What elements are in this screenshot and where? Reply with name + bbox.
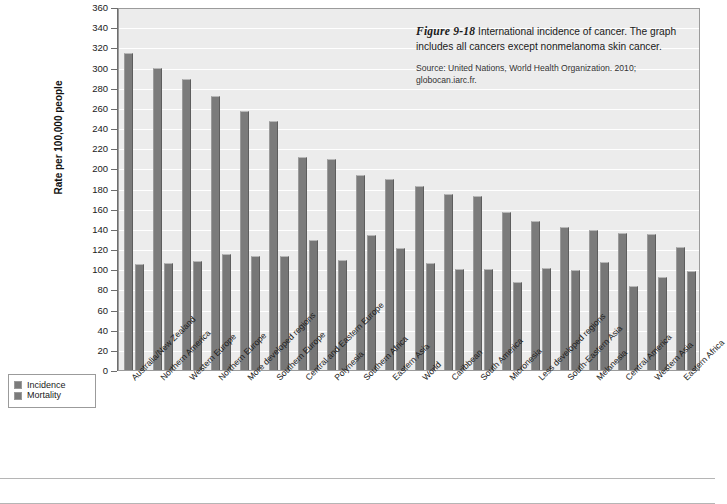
bar-mortality-19 <box>687 271 696 370</box>
gridline <box>119 169 699 170</box>
bar-incidence-10 <box>415 186 424 370</box>
y-axis-tick <box>111 331 117 332</box>
bar-mortality-8 <box>367 235 376 370</box>
y-axis-tick <box>111 230 117 231</box>
gridline <box>119 230 699 231</box>
legend-swatch-mortality <box>14 392 22 400</box>
legend-label-incidence: Incidence <box>27 381 66 390</box>
bar-mortality-1 <box>164 263 173 370</box>
bar-mortality-4 <box>251 256 260 370</box>
gridline <box>119 109 699 110</box>
legend-item-mortality: Mortality <box>14 391 90 400</box>
gridline <box>119 290 699 291</box>
bar-mortality-3 <box>222 254 231 370</box>
y-axis-tick <box>111 69 117 70</box>
y-axis-tick <box>111 28 117 29</box>
gridline <box>119 331 699 332</box>
bar-incidence-16 <box>589 230 598 370</box>
bar-mortality-2 <box>193 261 202 370</box>
bar-mortality-9 <box>396 248 405 370</box>
bar-incidence-17 <box>618 233 627 370</box>
bar-incidence-19 <box>676 247 685 370</box>
y-axis-tick <box>111 270 117 271</box>
y-axis-tick-label: 60 <box>86 306 108 316</box>
bar-incidence-11 <box>444 194 453 370</box>
y-axis-tick <box>111 129 117 130</box>
y-axis-tick-label: 140 <box>86 225 108 235</box>
bar-incidence-15 <box>560 227 569 370</box>
gridline <box>119 210 699 211</box>
gridline <box>119 190 699 191</box>
bar-incidence-3 <box>211 96 220 370</box>
bar-incidence-1 <box>153 68 162 371</box>
bar-mortality-6 <box>309 240 318 370</box>
bar-incidence-5 <box>269 121 278 370</box>
y-axis-line <box>117 8 118 371</box>
bar-mortality-12 <box>484 269 493 370</box>
y-axis-tick-label: 20 <box>86 346 108 356</box>
bar-mortality-7 <box>338 260 347 370</box>
figure-caption: Figure 9-18 International incidence of c… <box>416 24 684 87</box>
bar-incidence-7 <box>327 159 336 370</box>
bar-mortality-11 <box>455 269 464 370</box>
caption-body: Figure 9-18 International incidence of c… <box>416 24 684 54</box>
y-axis-tick-label: 360 <box>86 3 108 13</box>
y-axis-tick-label: 40 <box>86 326 108 336</box>
legend-label-mortality: Mortality <box>27 391 61 400</box>
bar-incidence-14 <box>531 221 540 370</box>
y-axis-tick-label: 220 <box>86 144 108 154</box>
y-axis-tick <box>111 8 117 9</box>
gridline <box>119 270 699 271</box>
bar-mortality-0 <box>135 264 144 370</box>
y-axis-title: Rate per 100,000 people <box>53 58 64 218</box>
y-axis-tick <box>111 371 117 372</box>
y-axis-tick <box>111 311 117 312</box>
y-axis-tick <box>111 149 117 150</box>
bar-incidence-8 <box>356 175 365 370</box>
bar-mortality-18 <box>658 277 667 370</box>
y-axis-tick-label: 240 <box>86 124 108 134</box>
y-axis-tick-label: 280 <box>86 84 108 94</box>
legend-swatch-incidence <box>14 381 22 389</box>
gridline <box>119 351 699 352</box>
caption-source: Source: United Nations, World Health Org… <box>416 63 684 87</box>
figure-number: Figure 9-18 <box>416 25 475 38</box>
bar-mortality-10 <box>426 263 435 370</box>
y-axis-tick-label: 260 <box>86 104 108 114</box>
bar-incidence-9 <box>385 179 394 370</box>
chart-legend: Incidence Mortality <box>8 374 96 408</box>
gridline <box>119 129 699 130</box>
gridline <box>119 149 699 150</box>
y-axis-tick <box>111 89 117 90</box>
gridline <box>119 250 699 251</box>
y-axis-tick-label: 200 <box>86 164 108 174</box>
y-axis-tick <box>111 169 117 170</box>
y-axis-tick-label: 80 <box>86 285 108 295</box>
page-rule-top <box>0 478 715 479</box>
bar-incidence-6 <box>298 157 307 370</box>
gridline <box>119 311 699 312</box>
bar-incidence-2 <box>182 79 191 370</box>
bar-mortality-14 <box>542 268 551 370</box>
bar-incidence-12 <box>473 196 482 370</box>
y-axis-tick <box>111 109 117 110</box>
y-axis-tick-label: 340 <box>86 23 108 33</box>
y-axis-tick-label: 300 <box>86 64 108 74</box>
y-axis-tick-label: 160 <box>86 205 108 215</box>
y-axis-tick <box>111 190 117 191</box>
y-axis-tick-label: 180 <box>86 185 108 195</box>
y-axis-tick <box>111 250 117 251</box>
y-axis-tick <box>111 48 117 49</box>
y-axis-tick-label: 120 <box>86 245 108 255</box>
y-axis-tick-label: 100 <box>86 265 108 275</box>
bar-incidence-13 <box>502 212 511 370</box>
bar-mortality-17 <box>629 286 638 370</box>
bar-mortality-16 <box>600 262 609 370</box>
y-axis-tick <box>111 210 117 211</box>
bar-incidence-4 <box>240 111 249 370</box>
gridline <box>119 89 699 90</box>
y-axis-tick <box>111 290 117 291</box>
bar-mortality-5 <box>280 256 289 370</box>
bar-incidence-0 <box>124 53 133 370</box>
